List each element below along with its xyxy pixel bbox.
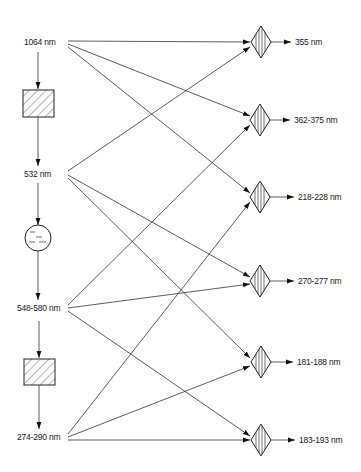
- crystal-diamond-icon: [250, 104, 270, 136]
- label-1064: 1064 nm: [24, 37, 56, 47]
- output-362-375: 362-375 nm: [250, 104, 337, 136]
- line-532-to-181: [68, 178, 250, 358]
- output-270-277: 270-277 nm: [250, 265, 341, 297]
- label-183-193: 183-193 nm: [299, 435, 342, 445]
- dye-cell-circle-icon: [25, 225, 51, 251]
- label-355: 355 nm: [295, 37, 322, 47]
- label-548-580: 548-580 nm: [17, 303, 60, 313]
- output-355: 355 nm: [251, 26, 322, 58]
- crystal-diamond-icon: [251, 424, 271, 456]
- label-218-228: 218-228 nm: [298, 192, 341, 202]
- crystal-diamond-icon: [251, 26, 271, 58]
- line-548-to-183: [68, 311, 250, 436]
- crystal-diamond-icon: [250, 265, 270, 297]
- line-274-to-218: [68, 202, 250, 434]
- crystal-diamond-icon: [250, 181, 270, 213]
- output-181-188: 181-188 nm: [251, 346, 340, 378]
- hatched-box-icon: [23, 90, 54, 117]
- label-181-188: 181-188 nm: [297, 357, 340, 367]
- line-274-to-181: [68, 366, 250, 437]
- label-274-290: 274-290 nm: [17, 432, 60, 442]
- source-label-274-290: 274-290 nm: [17, 432, 60, 442]
- line-1064-to-355: [68, 41, 250, 42]
- label-270-277: 270-277 nm: [298, 276, 341, 286]
- line-1064-to-218: [68, 47, 250, 193]
- output-183-193: 183-193 nm: [251, 424, 342, 456]
- source-label-1064: 1064 nm: [24, 37, 56, 47]
- connection-lines: [68, 41, 250, 440]
- hatched-box-icon: [24, 359, 55, 385]
- source-label-548-580: 548-580 nm: [17, 303, 60, 313]
- line-548-to-270: [68, 284, 250, 308]
- wavelength-diagram: 1064 nm 532 nm 548-580 nm 274-290 nm: [0, 0, 361, 472]
- source-label-532: 532 nm: [24, 169, 51, 179]
- label-362-375: 362-375 nm: [294, 115, 337, 125]
- output-218-228: 218-228 nm: [250, 181, 341, 213]
- crystal-diamond-icon: [251, 346, 271, 378]
- line-532-to-270: [68, 175, 250, 277]
- line-1064-to-362: [68, 44, 250, 116]
- label-532: 532 nm: [24, 169, 51, 179]
